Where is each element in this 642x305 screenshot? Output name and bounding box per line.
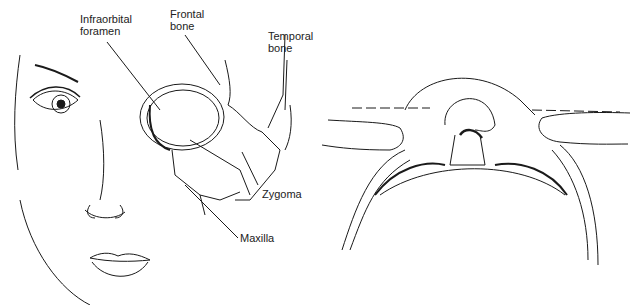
label-text: Temporal [268, 30, 313, 42]
label-text: bone [170, 20, 194, 32]
face-frontal-illustration: Infraorbitalforamen Frontalbone Temporal… [0, 0, 320, 305]
label-temporal-bone: Temporalbone [268, 30, 313, 54]
inferior-head-drawing [320, 0, 642, 305]
label-frontal-bone: Frontalbone [170, 8, 204, 32]
label-maxilla: Maxilla [240, 232, 274, 244]
label-zygoma: Zygoma [262, 188, 302, 200]
inferior-view-illustration [320, 0, 642, 305]
label-text: Infraorbital [80, 13, 132, 25]
label-text: Frontal [170, 8, 204, 20]
label-text: foramen [80, 25, 120, 37]
label-infraorbital-foramen: Infraorbitalforamen [80, 13, 132, 37]
label-text: bone [268, 42, 292, 54]
